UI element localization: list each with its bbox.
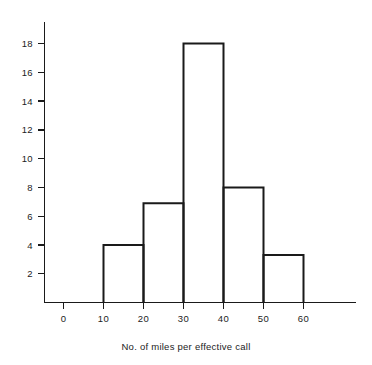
histogram-bar — [144, 203, 184, 302]
histogram-bar — [104, 245, 144, 303]
histogram-bar — [264, 255, 304, 302]
y-tick-label-6: 6 — [27, 211, 33, 222]
x-axis-title: No. of miles per effective call — [0, 341, 372, 352]
x-tick-label-50: 50 — [258, 313, 269, 324]
x-axis-ticks — [64, 303, 304, 310]
y-axis-tick-labels: 2 4 6 8 10 12 14 16 18 — [22, 38, 33, 279]
histogram-bar — [224, 187, 264, 302]
histogram-bar — [184, 44, 224, 303]
x-tick-label-10: 10 — [98, 313, 109, 324]
y-tick-label-14: 14 — [22, 96, 33, 107]
y-tick-label-12: 12 — [22, 124, 33, 135]
histogram-figure: 2 4 6 8 10 12 14 16 18 0 10 20 30 40 — [0, 0, 372, 365]
y-tick-label-2: 2 — [27, 268, 33, 279]
histogram-bars — [104, 44, 304, 303]
x-axis-tick-labels: 0 10 20 30 40 50 60 — [61, 313, 310, 324]
histogram-plot-area: 2 4 6 8 10 12 14 16 18 0 10 20 30 40 — [0, 0, 372, 365]
x-tick-label-40: 40 — [218, 313, 229, 324]
y-tick-label-4: 4 — [27, 240, 33, 251]
y-tick-label-16: 16 — [22, 67, 33, 78]
x-tick-label-30: 30 — [178, 313, 189, 324]
x-tick-label-20: 20 — [138, 313, 149, 324]
y-tick-label-18: 18 — [22, 38, 33, 49]
x-tick-label-60: 60 — [298, 313, 309, 324]
x-tick-label-0: 0 — [61, 313, 67, 324]
y-tick-label-8: 8 — [27, 182, 33, 193]
y-axis-ticks — [38, 44, 45, 274]
y-tick-label-10: 10 — [22, 153, 33, 164]
